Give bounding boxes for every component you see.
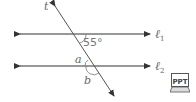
angle-arc-a (85, 60, 88, 66)
label-l2: ℓ2 (155, 59, 164, 75)
label-angle-a: a (75, 53, 82, 66)
label-angle-b: b (84, 74, 91, 87)
label-l1: ℓ1 (155, 27, 164, 43)
ppt-icon-label: PPT (172, 78, 187, 86)
diagram: t 55° a b ℓ1 ℓ2 (0, 0, 196, 102)
label-angle-55: 55° (83, 36, 103, 49)
label-t: t (44, 0, 49, 13)
ppt-icon[interactable]: PPT (170, 72, 190, 94)
